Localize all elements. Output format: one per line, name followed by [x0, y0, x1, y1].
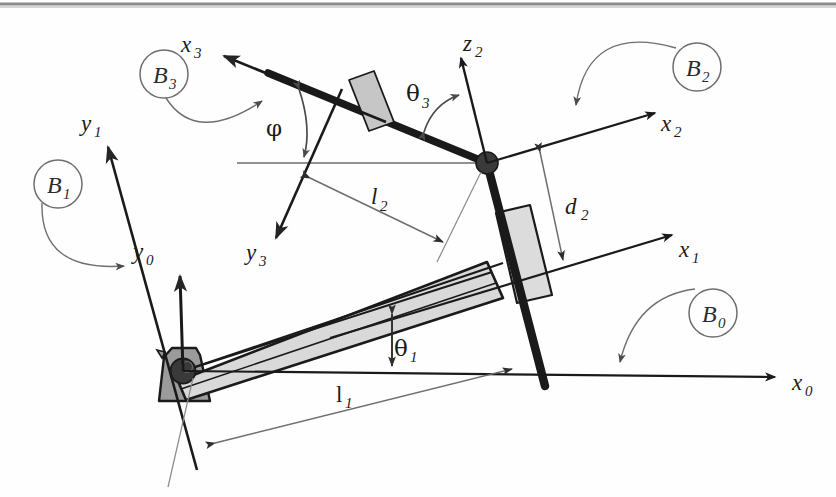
link-1-lower-arm-front-edge: [183, 263, 503, 371]
dimension-label-l1-glyph: l: [336, 382, 342, 407]
prismatic-slider-block-upper: [349, 71, 394, 131]
dimension-label-l1-sub: 1: [345, 395, 353, 411]
axis-label-x2-sub: 2: [674, 124, 682, 140]
diagram-canvas: B 0 B 1 B 2 B 3 x 0 y 0 x 1 y 1 x 2 z 2: [0, 0, 836, 497]
frame-label-B1-base: B: [47, 172, 62, 198]
frame-badge-B1: B 1: [34, 160, 82, 208]
axis-x0: [183, 371, 775, 377]
frame-badge-B2: B 2: [673, 43, 721, 91]
frame-label-B2-sub: 2: [702, 69, 710, 85]
dimension-label-l2-glyph: l: [371, 184, 377, 209]
axis-label-x1-sub: 1: [692, 250, 700, 266]
axis-label-y1-sub: 1: [94, 124, 102, 140]
angle-label-theta1: θ 1: [394, 335, 418, 365]
axis-label-y3-sub: 3: [258, 253, 267, 269]
leader-frame-B2: [576, 42, 676, 105]
axis-label-z2: z 2: [462, 31, 483, 60]
axis-label-y1: y 1: [79, 111, 102, 140]
axis-label-y0: y 0: [131, 239, 154, 268]
angle-label-theta3: θ 3: [406, 80, 430, 111]
axis-label-y0-sub: 0: [146, 252, 154, 268]
angle-label-phi-glyph: φ: [266, 115, 282, 141]
axis-x2: [487, 113, 655, 163]
axis-label-x2-base: x: [660, 111, 672, 136]
leader-frame-B3: [166, 98, 262, 122]
angle-phi-indicator: [299, 89, 307, 157]
link-1-lower-arm: [178, 262, 503, 400]
angle-label-theta1-sub: 1: [410, 349, 418, 365]
axis-label-x3-base: x: [180, 32, 192, 57]
angle-label-theta3-sub: 3: [421, 95, 430, 111]
dimension-label-l1: l 1: [336, 382, 353, 411]
axis-label-x3-sub: 3: [193, 45, 202, 61]
axis-y1: [108, 147, 197, 470]
dimension-l2: [310, 172, 481, 262]
dimension-label-d2-glyph: d: [565, 194, 577, 219]
frame-badge-B0: B 0: [689, 289, 737, 337]
frame-label-B2-base: B: [686, 55, 701, 81]
axis-x1: [330, 235, 672, 338]
axis-label-x1-base: x: [678, 237, 690, 262]
axis-label-x0-sub: 0: [805, 383, 813, 399]
frame-label-B1-sub: 1: [63, 186, 71, 202]
angle-label-theta3-glyph: θ: [406, 80, 420, 106]
frame-label-B3-sub: 3: [168, 76, 177, 92]
frame-badge-B3: B 3: [140, 50, 188, 98]
frame-label-B0-sub: 0: [718, 315, 726, 331]
frame-label-B0-base: B: [702, 301, 717, 327]
axis-label-y3-base: y: [244, 240, 257, 265]
dimension-label-d2-sub: 2: [581, 207, 589, 223]
leader-frame-B1: [42, 203, 124, 266]
axis-label-x1: x 1: [678, 237, 700, 266]
dimension-label-d2: d 2: [565, 194, 589, 223]
dimension-label-l2: l 2: [371, 184, 388, 214]
axis-label-x2: x 2: [660, 111, 682, 140]
angle-label-theta1-glyph: θ: [394, 335, 408, 361]
axis-label-z2-sub: 2: [475, 44, 483, 60]
axis-label-z2-base: z: [462, 31, 472, 56]
dimension-label-l2-sub: 2: [380, 198, 388, 214]
axis-label-x0: x 0: [791, 370, 813, 399]
axis-label-y0-base: y: [131, 239, 144, 264]
angle-label-phi: φ: [266, 115, 282, 141]
axis-label-y1-base: y: [79, 111, 92, 136]
axis-label-x0-base: x: [791, 370, 803, 395]
leader-frame-B0: [620, 289, 695, 362]
axis-z2: [461, 58, 487, 163]
kinematic-diagram-figure: B 0 B 1 B 2 B 3 x 0 y 0 x 1 y 1 x 2 z 2: [0, 0, 836, 497]
dimension-d2: [540, 152, 563, 260]
axis-label-x3: x 3: [180, 32, 202, 61]
axis-label-y3: y 3: [244, 240, 267, 269]
frame-label-B3-base: B: [153, 62, 168, 88]
